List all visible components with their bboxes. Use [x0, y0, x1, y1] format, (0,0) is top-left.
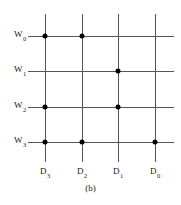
row-label-w0: W0 — [14, 30, 26, 41]
word-line-w1 — [28, 71, 174, 72]
node-dot-w3-d3 — [43, 140, 48, 145]
column-label-d0: D0 — [150, 167, 160, 178]
row-label-w1: W1 — [14, 65, 26, 76]
column-label-subscript: 2 — [84, 172, 87, 179]
column-label-base: D — [113, 166, 120, 176]
node-dot-w2-d1 — [116, 105, 121, 110]
node-dot-w2-d3 — [43, 105, 48, 110]
column-label-subscript: 1 — [120, 172, 123, 179]
column-label-d1: D1 — [113, 167, 123, 178]
row-label-w2: W2 — [14, 101, 26, 112]
row-label-base: W — [14, 135, 23, 145]
grid-figure: W0W1W2W3 D3D2D1D0 — [0, 0, 181, 205]
row-label-subscript: 3 — [23, 142, 26, 149]
node-dot-w0-d3 — [43, 34, 48, 39]
node-dot-w0-d2 — [80, 34, 85, 39]
column-label-base: D — [77, 166, 84, 176]
row-label-base: W — [14, 64, 23, 74]
node-dot-w1-d1 — [116, 69, 121, 74]
column-label-base: D — [150, 166, 157, 176]
column-label-subscript: 3 — [47, 172, 50, 179]
row-label-base: W — [14, 100, 23, 110]
column-label-d3: D3 — [40, 167, 50, 178]
row-label-w3: W3 — [14, 136, 26, 147]
node-dot-w3-d2 — [80, 140, 85, 145]
word-line-w0 — [28, 36, 174, 37]
column-label-base: D — [40, 166, 47, 176]
column-label-d2: D2 — [77, 167, 87, 178]
row-label-subscript: 1 — [23, 71, 26, 78]
row-label-subscript: 2 — [23, 107, 26, 114]
row-label-base: W — [14, 29, 23, 39]
node-dot-w3-d0 — [153, 140, 158, 145]
column-label-subscript: 0 — [157, 172, 160, 179]
figure-caption: (b) — [0, 184, 181, 193]
word-line-w2 — [28, 107, 174, 108]
row-label-subscript: 0 — [23, 36, 26, 43]
